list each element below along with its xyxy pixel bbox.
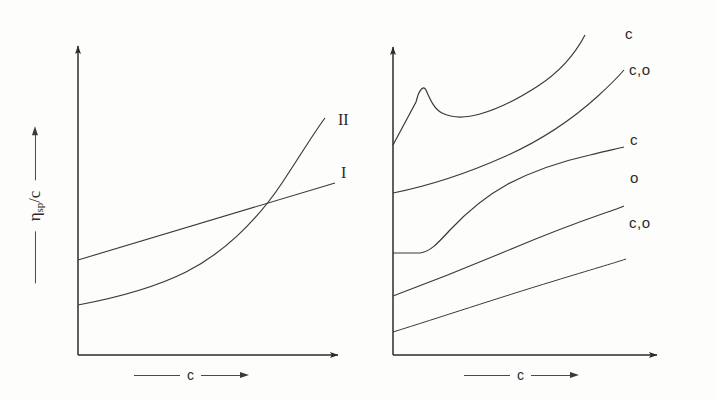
eta-divider: /	[26, 198, 43, 202]
left-curve-ii	[78, 118, 325, 305]
left-plot-panel: ηsp/c II I c	[0, 0, 358, 401]
eta-symbol: η	[25, 212, 44, 221]
eta-subscript: sp	[33, 203, 45, 213]
eta-denominator: c	[25, 191, 44, 199]
x-caption-rule	[464, 375, 510, 376]
x-caption-arrow-icon	[201, 372, 249, 379]
right-x-axis-caption: c	[464, 368, 579, 382]
curve-label-second-co: c,o	[629, 62, 651, 77]
right-curve-bottom-co	[393, 259, 626, 332]
right-plot-panel: c c,o c o c,o c	[358, 0, 716, 401]
curve-label-ii: II	[338, 112, 349, 128]
y-label-expression: ηsp/c	[25, 191, 45, 222]
left-plot-svg	[0, 0, 358, 401]
right-plot-svg	[358, 0, 716, 401]
right-curve-third-c	[393, 147, 624, 253]
curve-label-i: I	[341, 165, 346, 181]
x-caption-text: c	[517, 368, 524, 382]
x-caption-arrow-icon	[531, 372, 579, 379]
curve-label-bottom-co: c,o	[629, 215, 651, 230]
x-caption-text: c	[187, 368, 194, 382]
y-label-arrow-icon	[31, 127, 38, 181]
right-curve-second-co	[393, 70, 624, 193]
left-y-axis-label: ηsp/c	[18, 90, 52, 320]
curve-label-top-c: c	[625, 26, 633, 41]
figure-container: ηsp/c II I c	[0, 0, 716, 401]
left-x-axis-caption: c	[134, 368, 249, 382]
y-label-rule	[34, 231, 35, 283]
x-caption-rule	[134, 375, 180, 376]
curve-label-fourth-o: o	[630, 170, 639, 185]
curve-label-third-c: c	[630, 132, 638, 147]
left-curve-i	[78, 183, 335, 260]
